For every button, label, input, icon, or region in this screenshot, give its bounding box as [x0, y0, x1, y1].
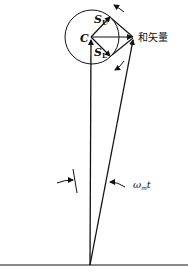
angle-label: ωmt [133, 179, 152, 191]
angle-arrow-right-icon [110, 182, 125, 187]
angle-tick-left [73, 169, 77, 193]
lower-rotation-arrow-icon [115, 61, 124, 70]
angle-arrow-left-icon [57, 180, 73, 183]
lower-sideband-translated [111, 18, 133, 37]
sum-vector-label: 和矢量 [138, 31, 168, 43]
carrier-label: C [80, 32, 89, 45]
sum-vector [90, 40, 133, 265]
phasor-diagram: C SU SL 和矢量 ωmt [0, 0, 188, 276]
upper-sideband-translated [112, 38, 133, 55]
carrier-vector [90, 40, 91, 265]
lower-sideband-label: SL [94, 46, 107, 60]
upper-rotation-arrow-icon [114, 5, 124, 12]
upper-sideband-label: SU [94, 13, 108, 27]
